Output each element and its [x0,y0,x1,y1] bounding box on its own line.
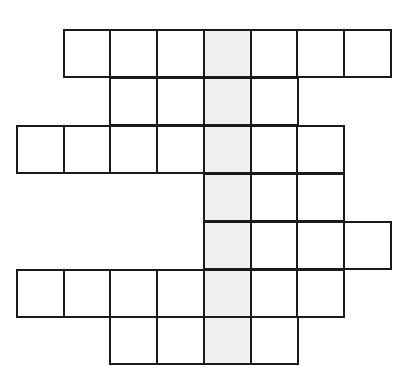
grid-cell-r3-c5[interactable] [250,173,299,222]
grid-cell-r5-c1[interactable] [63,269,112,318]
grid-cell-r4-c5[interactable] [250,221,299,270]
grid-cell-r4-c4[interactable] [203,221,252,270]
grid-cell-r2-c6[interactable] [296,125,345,174]
grid-cell-r5-c3[interactable] [156,269,205,318]
grid-cell-r0-c4[interactable] [203,29,252,78]
grid-cell-r2-c4[interactable] [203,125,252,174]
grid-cell-r0-c7[interactable] [343,29,392,78]
grid-cell-r5-c2[interactable] [109,269,158,318]
grid-cell-r2-c2[interactable] [109,125,158,174]
grid-cell-r5-c4[interactable] [203,269,252,318]
grid-cell-r0-c2[interactable] [109,29,158,78]
grid-cell-r0-c5[interactable] [250,29,299,78]
grid-cell-r2-c1[interactable] [63,125,112,174]
grid-cell-r1-c5[interactable] [250,77,299,126]
grid-cell-r4-c6[interactable] [296,221,345,270]
grid-cell-r3-c4[interactable] [203,173,252,222]
crossword-grid [0,0,418,374]
grid-cell-r1-c2[interactable] [109,77,158,126]
grid-cell-r0-c3[interactable] [156,29,205,78]
grid-cell-r5-c6[interactable] [296,269,345,318]
grid-cell-r5-c5[interactable] [250,269,299,318]
grid-cell-r0-c1[interactable] [63,29,112,78]
grid-cell-r2-c5[interactable] [250,125,299,174]
grid-cell-r1-c4[interactable] [203,77,252,126]
grid-cell-r6-c2[interactable] [109,316,158,365]
grid-cell-r6-c3[interactable] [156,316,205,365]
grid-cell-r3-c6[interactable] [296,173,345,222]
grid-cell-r2-c0[interactable] [16,125,65,174]
grid-cell-r6-c4[interactable] [203,316,252,365]
grid-cell-r6-c5[interactable] [250,316,299,365]
grid-cell-r4-c7[interactable] [343,221,392,270]
grid-cell-r0-c6[interactable] [296,29,345,78]
grid-cell-r2-c3[interactable] [156,125,205,174]
grid-cell-r5-c0[interactable] [16,269,65,318]
grid-cell-r1-c3[interactable] [156,77,205,126]
